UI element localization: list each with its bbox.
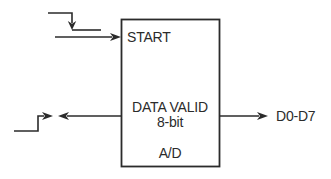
bit-width-label: 8-bit: [157, 114, 184, 130]
data-bus-label: D0-D7: [276, 108, 316, 124]
falling-edge-waveform-icon: [48, 13, 101, 30]
device-label: A/D: [159, 145, 182, 161]
ad-converter-diagram: START DATA VALID 8-bit A/D D0-D7: [0, 0, 331, 179]
start-input-label: START: [127, 29, 171, 45]
rising-edge-trace: [14, 116, 44, 131]
data-bus-arrow: [220, 112, 269, 120]
rising-edge-waveform-icon: [14, 112, 53, 131]
diagram-canvas: START DATA VALID 8-bit A/D D0-D7: [0, 0, 331, 179]
start-signal-arrow: [55, 33, 121, 41]
data-valid-arrow: [58, 112, 121, 120]
data-valid-label: DATA VALID: [132, 99, 208, 115]
